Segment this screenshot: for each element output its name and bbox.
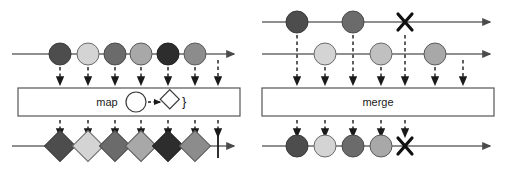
merge-output-arrows <box>297 120 405 136</box>
merge-source-b-marble[interactable] <box>314 43 336 65</box>
map-source-marble[interactable] <box>77 43 99 65</box>
merge-output-marble[interactable] <box>370 135 392 157</box>
map-source-marble[interactable] <box>184 43 206 65</box>
map-marble-diagram: map } <box>0 0 252 170</box>
map-operator-label: map <box>96 96 117 108</box>
map-diagram-canvas: map } <box>0 0 252 170</box>
merge-output-marble[interactable] <box>342 135 364 157</box>
map-source-marble[interactable] <box>157 43 179 65</box>
merge-source-a-timeline <box>262 11 490 33</box>
merge-output-marble[interactable] <box>286 135 308 157</box>
merge-source-a-marble[interactable] <box>342 11 364 33</box>
map-projection-circle-icon <box>126 92 146 112</box>
map-operator-box[interactable]: map } <box>18 88 240 116</box>
merge-operator-box[interactable]: merge <box>262 88 494 116</box>
merge-diagram-canvas: merge <box>252 0 505 170</box>
merge-operator-label: merge <box>362 96 393 108</box>
merge-source-a-marble[interactable] <box>286 11 308 33</box>
merge-output-timeline <box>262 135 490 157</box>
merge-source-b-timeline <box>262 43 490 65</box>
merge-output-marble[interactable] <box>314 135 336 157</box>
merge-marble-diagram: merge <box>252 0 505 170</box>
merge-source-b-marble[interactable] <box>424 43 446 65</box>
merge-source-b-marble[interactable] <box>370 43 392 65</box>
map-source-marble[interactable] <box>130 43 152 65</box>
map-source-timeline <box>12 43 234 65</box>
map-source-marble[interactable] <box>104 43 126 65</box>
map-closing-brace-label: } <box>182 94 187 109</box>
map-output-marble[interactable] <box>179 130 210 161</box>
map-output-timeline <box>12 130 234 161</box>
map-source-marble[interactable] <box>49 43 71 65</box>
map-output-marble[interactable] <box>44 130 75 161</box>
